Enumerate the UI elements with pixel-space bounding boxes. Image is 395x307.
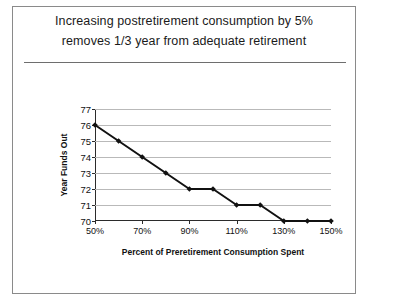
x-tick-label: 150% bbox=[319, 226, 342, 236]
y-tick-label: 73 bbox=[80, 168, 91, 179]
data-point-marker bbox=[305, 218, 311, 224]
x-tick-label: 130% bbox=[272, 226, 295, 236]
line-chart: Year Funds Out 7071727374757677 50%70%90… bbox=[13, 69, 357, 294]
y-tick-label: 70 bbox=[80, 216, 91, 227]
x-tick-mark bbox=[95, 221, 96, 224]
x-tick-label: 110% bbox=[225, 226, 247, 236]
y-tick-label: 77 bbox=[80, 104, 91, 115]
slide-frame: Increasing postretirement consumption by… bbox=[12, 6, 356, 294]
x-tick-label: 70% bbox=[133, 226, 151, 236]
x-tick-mark bbox=[237, 221, 238, 224]
slide-title: Increasing postretirement consumption by… bbox=[13, 11, 355, 51]
data-point-marker bbox=[328, 218, 334, 224]
y-tick-label: 75 bbox=[80, 136, 91, 147]
y-tick-label: 72 bbox=[80, 184, 91, 195]
y-tick-label: 71 bbox=[80, 200, 91, 211]
data-series bbox=[95, 109, 331, 221]
y-tick-label: 76 bbox=[80, 120, 91, 131]
title-divider bbox=[24, 62, 346, 63]
x-axis-title: Percent of Preretirement Consumption Spe… bbox=[95, 247, 331, 257]
title-line-1: Increasing postretirement consumption by… bbox=[13, 11, 355, 31]
y-tick-label: 74 bbox=[80, 152, 91, 163]
x-tick-label: 90% bbox=[180, 226, 198, 236]
series-line bbox=[95, 125, 331, 221]
x-tick-label: 50% bbox=[86, 226, 104, 236]
title-line-2: removes 1/3 year from adequate retiremen… bbox=[13, 31, 355, 51]
x-tick-mark bbox=[189, 221, 190, 224]
y-axis-title-text: Year Funds Out bbox=[59, 134, 69, 197]
x-tick-mark bbox=[142, 221, 143, 224]
plot-area: 7071727374757677 50%70%90%110%130%150% bbox=[95, 109, 331, 221]
y-axis-title: Year Funds Out bbox=[57, 109, 71, 221]
